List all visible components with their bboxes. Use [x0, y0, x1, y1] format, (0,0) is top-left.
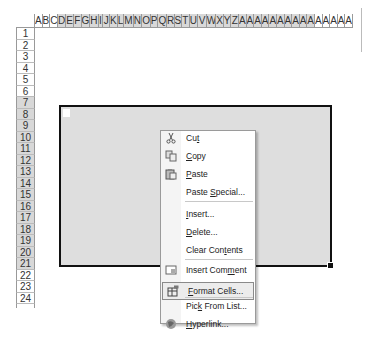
column-header[interactable]: N: [134, 14, 143, 27]
column-header[interactable]: W: [207, 14, 216, 27]
row-header[interactable]: 14: [16, 178, 35, 190]
menu-item-label: Pick From List...: [181, 301, 247, 311]
row-header[interactable]: 13: [16, 166, 35, 178]
row-header[interactable]: 15: [16, 189, 35, 201]
menu-item-cut[interactable]: Cut: [161, 129, 255, 147]
menu-item-hyperlink[interactable]: Hyperlink...: [161, 315, 255, 333]
row-header[interactable]: 17: [16, 212, 35, 224]
menu-item-label: Hyperlink...: [181, 319, 229, 329]
row-header[interactable]: 24: [16, 293, 35, 305]
copy-icon: [161, 147, 181, 165]
menu-separator: [185, 201, 253, 202]
row-header[interactable]: 11: [16, 143, 35, 155]
select-all-corner[interactable]: [16, 14, 35, 28]
column-header[interactable]: A: [35, 14, 43, 27]
hyperlink-icon: [161, 315, 181, 333]
row-header[interactable]: 16: [16, 201, 35, 213]
row-header[interactable]: 12: [16, 155, 35, 167]
column-header[interactable]: A: [239, 14, 247, 27]
row-header[interactable]: 23: [16, 281, 35, 293]
column-header[interactable]: Y: [224, 14, 232, 27]
row-header[interactable]: 20: [16, 247, 35, 259]
menu-item-clear-contents[interactable]: Clear Contents: [161, 241, 255, 259]
column-header[interactable]: Q: [158, 14, 167, 27]
row-header[interactable]: 6: [16, 86, 35, 98]
column-header[interactable]: A: [338, 14, 346, 27]
column-header[interactable]: L: [118, 14, 125, 27]
fill-handle[interactable]: [327, 262, 334, 269]
menu-item-paste-special[interactable]: Paste Special...: [161, 183, 255, 201]
menu-item-label: Insert Comment: [181, 265, 247, 275]
row-header[interactable]: 4: [16, 63, 35, 75]
row-header[interactable]: 9: [16, 120, 35, 132]
column-header[interactable]: A: [277, 14, 285, 27]
column-header[interactable]: A: [247, 14, 255, 27]
menu-item-delete[interactable]: Delete...: [161, 223, 255, 241]
row-header-partial: [16, 304, 35, 308]
column-header[interactable]: A: [345, 14, 353, 27]
menu-item-label: Format Cells...: [183, 286, 243, 296]
column-header[interactable]: A: [262, 14, 270, 27]
active-cell[interactable]: [63, 109, 70, 117]
column-header[interactable]: F: [74, 14, 82, 27]
column-header[interactable]: T: [182, 14, 190, 27]
column-header[interactable]: B: [43, 14, 51, 27]
menu-separator: [185, 259, 253, 260]
row-header[interactable]: 19: [16, 235, 35, 247]
menu-item-paste[interactable]: Paste: [161, 165, 255, 183]
row-header[interactable]: 1: [16, 28, 35, 40]
column-headers: ABCDEFGHIJKLMNOPQRSTUVWXYZAAAAAAAAAAAAAA…: [35, 14, 353, 28]
context-menu: CutCopyPastePaste Special...Insert...Del…: [160, 130, 256, 324]
scissors-icon: [161, 129, 181, 147]
row-header[interactable]: 8: [16, 109, 35, 121]
menu-item-label: Insert...: [181, 209, 214, 219]
menu-item-label: Delete...: [181, 227, 218, 237]
blank-icon: [161, 205, 181, 223]
row-header[interactable]: 18: [16, 224, 35, 236]
column-header[interactable]: D: [58, 14, 67, 27]
column-header[interactable]: A: [269, 14, 277, 27]
menu-item-insert-comment[interactable]: Insert Comment: [161, 261, 255, 279]
column-header[interactable]: A: [315, 14, 323, 27]
menu-item-label: Paste Special...: [181, 187, 245, 197]
blank-icon: [161, 241, 181, 259]
paste-icon: [161, 165, 181, 183]
row-header[interactable]: 22: [16, 270, 35, 282]
column-header[interactable]: E: [66, 14, 74, 27]
blank-icon: [161, 297, 181, 315]
column-header[interactable]: A: [323, 14, 331, 27]
column-header[interactable]: X: [216, 14, 224, 27]
column-header[interactable]: J: [103, 14, 110, 27]
column-header[interactable]: A: [292, 14, 300, 27]
menu-item-insert[interactable]: Insert...: [161, 205, 255, 223]
row-header[interactable]: 3: [16, 51, 35, 63]
column-header[interactable]: Z: [231, 14, 239, 27]
menu-item-label: Cut: [181, 133, 199, 143]
row-header[interactable]: 7: [16, 97, 35, 109]
column-header[interactable]: O: [142, 14, 151, 27]
menu-item-label: Copy: [181, 151, 206, 161]
row-header[interactable]: 2: [16, 40, 35, 52]
column-header[interactable]: G: [82, 14, 91, 27]
column-header[interactable]: C: [50, 14, 58, 27]
column-header[interactable]: A: [285, 14, 293, 27]
column-header[interactable]: A: [300, 14, 308, 27]
menu-item-label: Clear Contents: [181, 245, 243, 255]
column-header[interactable]: P: [151, 14, 159, 27]
column-header[interactable]: K: [110, 14, 118, 27]
column-header[interactable]: A: [254, 14, 262, 27]
row-header[interactable]: 21: [16, 258, 35, 270]
column-header[interactable]: S: [175, 14, 183, 27]
column-header[interactable]: V: [198, 14, 207, 27]
column-header[interactable]: A: [330, 14, 338, 27]
row-header[interactable]: 10: [16, 132, 35, 144]
blank-icon: [161, 183, 181, 201]
row-header[interactable]: 5: [16, 74, 35, 86]
column-header[interactable]: M: [124, 14, 133, 27]
menu-item-pick-from-list[interactable]: Pick From List...: [161, 297, 255, 315]
column-header[interactable]: R: [167, 14, 175, 27]
menu-item-copy[interactable]: Copy: [161, 147, 255, 165]
column-header[interactable]: U: [190, 14, 199, 27]
column-header[interactable]: H: [90, 14, 99, 27]
column-header[interactable]: A: [307, 14, 315, 27]
